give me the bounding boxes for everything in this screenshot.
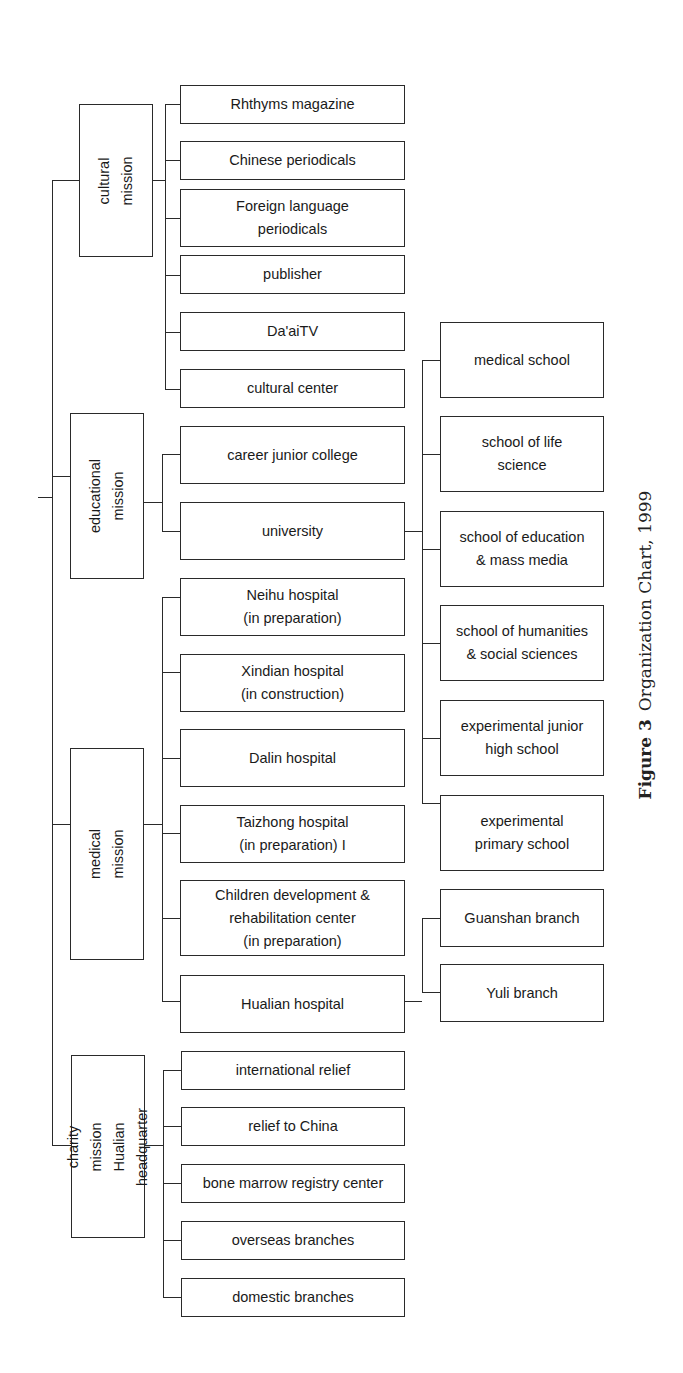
connector [162, 1001, 180, 1002]
unit-box: Taizhong hospital (in preparation) I [180, 805, 405, 863]
mission-box-cultural: cultural mission [79, 104, 153, 257]
branch-box: Yuli branch [440, 964, 604, 1022]
figure-caption: Figure 3Organization Chart, 1999 [635, 491, 655, 800]
connector [422, 803, 440, 804]
unit-box: cultural center [180, 369, 405, 408]
mission-label: cultural mission [93, 156, 139, 205]
connector [422, 454, 440, 455]
mission-label: educational mission [84, 459, 130, 533]
mission-label: medical mission [84, 829, 130, 879]
connector [162, 672, 180, 673]
connector [163, 1070, 181, 1071]
connector [162, 454, 180, 455]
unit-box: overseas branches [181, 1221, 405, 1260]
connector [163, 1183, 181, 1184]
connector [162, 531, 180, 532]
connector [163, 1297, 181, 1298]
connector [163, 1126, 181, 1127]
connector [165, 389, 180, 390]
connector-cultural [52, 180, 79, 181]
unit-box: Children development & rehabilitation ce… [180, 880, 405, 956]
connector-medical [52, 824, 70, 825]
unit-box: relief to China [181, 1107, 405, 1146]
branch-line-cultural [165, 104, 166, 389]
branch-line-university [422, 360, 423, 803]
mission-box-medical: medical mission [70, 748, 144, 960]
root-stub-line [38, 497, 52, 498]
unit-box: Da'aiTV [180, 312, 405, 351]
connector [145, 1145, 163, 1146]
school-box: experimental primary school [440, 795, 604, 871]
unit-box-hualian-hospital: Hualian hospital [180, 975, 405, 1033]
unit-box: publisher [180, 255, 405, 294]
unit-box: Neihu hospital (in preparation) [180, 578, 405, 636]
unit-box: international relief [181, 1051, 405, 1090]
connector [163, 1240, 181, 1241]
connector [165, 332, 180, 333]
connector [162, 833, 180, 834]
mission-label: charity mission Hualian headquarter [62, 1107, 154, 1185]
connector [405, 1001, 422, 1002]
connector [162, 597, 180, 598]
connector [422, 918, 440, 919]
unit-box: domestic branches [181, 1278, 405, 1317]
figure-title: Organization Chart, 1999 [635, 491, 655, 712]
branch-line-hualian [422, 918, 423, 992]
connector [165, 275, 180, 276]
connector-educational [52, 476, 70, 477]
mission-box-charity: charity mission Hualian headquarter [71, 1055, 145, 1238]
connector [165, 218, 180, 219]
connector [165, 160, 180, 161]
connector [422, 643, 440, 644]
branch-line-medical [162, 597, 163, 1001]
connector [422, 738, 440, 739]
school-box: school of life science [440, 416, 604, 492]
unit-box: Chinese periodicals [180, 141, 405, 180]
main-spine-line [52, 180, 53, 1146]
figure-label: Figure 3 [635, 719, 655, 799]
connector [405, 531, 422, 532]
unit-box: bone marrow registry center [181, 1164, 405, 1203]
school-box: school of humanities & social sciences [440, 605, 604, 681]
unit-box: Dalin hospital [180, 729, 405, 787]
mission-box-educational: educational mission [70, 413, 144, 579]
connector [422, 360, 440, 361]
connector [162, 758, 180, 759]
connector [153, 180, 165, 181]
connector [144, 824, 162, 825]
unit-box: Xindian hospital (in construction) [180, 654, 405, 712]
school-box: school of education & mass media [440, 511, 604, 587]
unit-box: Foreign language periodicals [180, 189, 405, 247]
unit-box-university: university [180, 502, 405, 560]
connector [144, 502, 162, 503]
connector [165, 104, 180, 105]
unit-box: Rhthyms magazine [180, 85, 405, 124]
connector [422, 992, 440, 993]
school-box: experimental junior high school [440, 700, 604, 776]
connector [422, 549, 440, 550]
school-box: medical school [440, 322, 604, 398]
branch-line-educational [162, 454, 163, 531]
branch-box: Guanshan branch [440, 889, 604, 947]
unit-box: career junior college [180, 426, 405, 484]
connector [162, 918, 180, 919]
